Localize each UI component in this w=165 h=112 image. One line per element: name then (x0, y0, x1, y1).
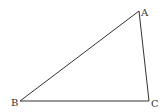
vertex-label-c: C (151, 98, 159, 109)
edge-ca (139, 11, 149, 101)
triangle-diagram: A B C (0, 0, 165, 112)
vertex-label-a: A (140, 7, 149, 18)
edge-ab (20, 11, 139, 101)
vertex-label-b: B (11, 97, 18, 108)
